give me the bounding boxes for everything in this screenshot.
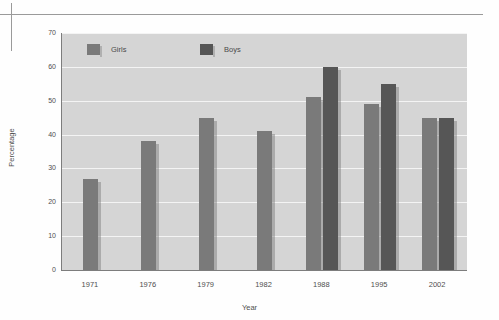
gridline [62,67,467,68]
x-axis-tick-label-1976: 1976 [118,281,178,289]
legend-label-girls: Girls [111,45,126,54]
bar-girls-1971 [83,179,98,270]
bar-body [364,104,379,270]
bar-shadow [396,87,399,270]
bar-girls-1988 [306,97,321,270]
x-axis-tick-label-1988: 1988 [291,281,351,289]
bar-shadow [156,144,159,270]
x-axis-title: Year [0,303,499,312]
y-axis-tick-label: 70 [28,29,56,36]
legend-item-girls: Girls [87,44,126,55]
y-axis-tick-label: 30 [28,164,56,171]
bar-boys-1988 [323,67,338,270]
legend-swatch-boys [200,44,213,55]
plot-area: GirlsBoys [61,33,467,271]
bar-shadow [98,182,101,270]
bar-boys-2002 [439,118,454,270]
y-axis-tick-label: 50 [28,97,56,104]
x-axis-tick-label-1971: 1971 [60,281,120,289]
y-axis-tick-label: 40 [28,131,56,138]
legend-item-boys: Boys [200,44,241,55]
bar-girls-1982 [257,131,272,270]
bar-girls-2002 [422,118,437,270]
x-axis-tick-label-1995: 1995 [349,281,409,289]
gridline [62,101,467,102]
x-axis-tick-label-2002: 2002 [407,281,467,289]
legend-label-boys: Boys [224,45,241,54]
y-axis-tick-label: 0 [28,266,56,273]
y-axis-title: Percentage [7,113,16,183]
bar-body [422,118,437,270]
bar-chart: GirlsBoys 010203040506070 19711976197919… [0,0,499,320]
bar-boys-1995 [381,84,396,270]
bar-shadow [454,121,457,270]
legend-swatch-shadow [213,46,215,57]
bar-shadow [214,121,217,270]
y-axis-tick-label: 20 [28,198,56,205]
x-axis-tick-label-1979: 1979 [176,281,236,289]
legend-swatch-girls [87,44,100,55]
y-axis-tick-label: 60 [28,63,56,70]
bar-body [257,131,272,270]
bar-body [306,97,321,270]
gridline [62,33,467,34]
y-axis-tick-label: 10 [28,232,56,239]
bar-girls-1979 [199,118,214,270]
bar-girls-1976 [141,141,156,270]
bar-body [323,67,338,270]
legend-swatch-shadow [100,46,102,57]
bar-shadow [338,70,341,270]
bar-body [439,118,454,270]
bar-body [141,141,156,270]
bar-girls-1995 [364,104,379,270]
bar-shadow [272,134,275,270]
scanned-page: GirlsBoys 010203040506070 19711976197919… [0,0,499,320]
bar-body [199,118,214,270]
x-axis-tick-label-1982: 1982 [234,281,294,289]
bar-body [381,84,396,270]
bar-body [83,179,98,270]
